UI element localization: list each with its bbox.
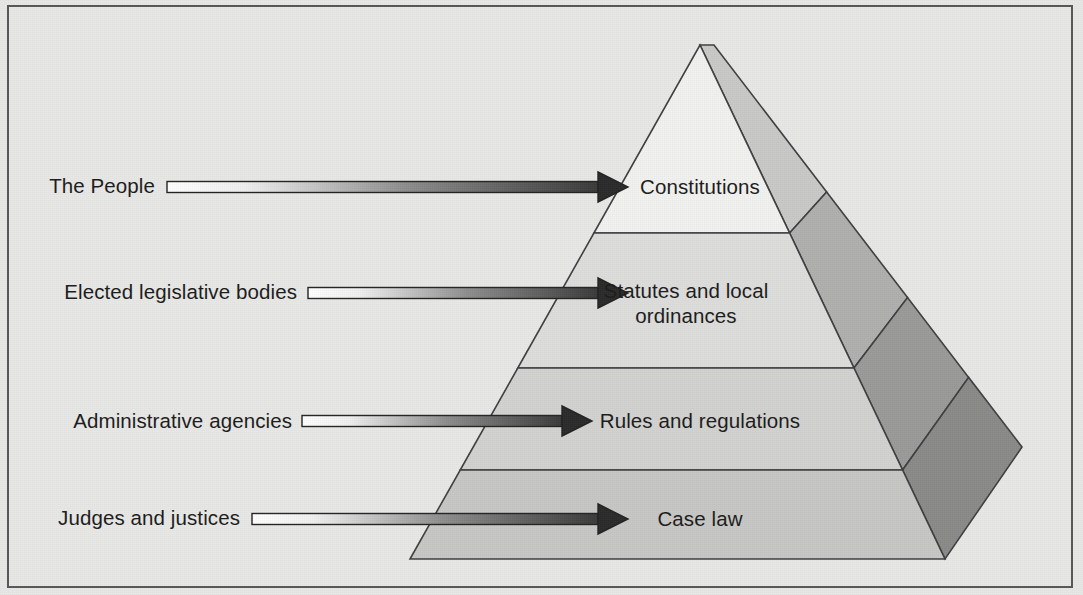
tier-statutes-label-line: ordinances: [604, 303, 769, 328]
source-administrative-agencies-arrow: [302, 406, 592, 436]
tier-constitutions-label-text: Constitutions: [640, 174, 760, 199]
tier-case-law-label-text: Case law: [657, 506, 742, 531]
law-hierarchy-pyramid-figure: ConstitutionsStatutes and localordinance…: [0, 0, 1083, 595]
source-judges-justices-arrow: [252, 504, 628, 534]
source-administrative-agencies-arrow-shaft: [302, 416, 562, 427]
tier-rules-label-line: Rules and regulations: [600, 408, 800, 433]
source-the-people-arrow-head: [598, 172, 628, 202]
source-legislative-bodies-arrow: [308, 278, 628, 308]
source-the-people-arrow-shaft: [167, 182, 598, 193]
source-legislative-bodies-label: Elected legislative bodies: [0, 279, 297, 304]
tier-statutes-label-line: Statutes and local: [604, 278, 769, 303]
tier-rules-label-text: Rules and regulations: [600, 408, 800, 433]
source-the-people-label: The People: [0, 173, 155, 198]
source-administrative-agencies-label: Administrative agencies: [0, 408, 292, 433]
tier-case-law-label-line: Case law: [657, 506, 742, 531]
tier-constitutions-label-line: Constitutions: [640, 174, 760, 199]
source-legislative-bodies-arrow-shaft: [308, 288, 598, 299]
source-the-people-arrow: [167, 172, 628, 202]
source-judges-justices-label: Judges and justices: [0, 505, 240, 530]
source-judges-justices-arrow-head: [598, 504, 628, 534]
source-administrative-agencies-arrow-head: [562, 406, 592, 436]
tier-statutes-label-text: Statutes and localordinances: [604, 278, 769, 328]
source-judges-justices-arrow-shaft: [252, 514, 598, 525]
diagram-canvas: ConstitutionsStatutes and localordinance…: [0, 0, 1083, 595]
